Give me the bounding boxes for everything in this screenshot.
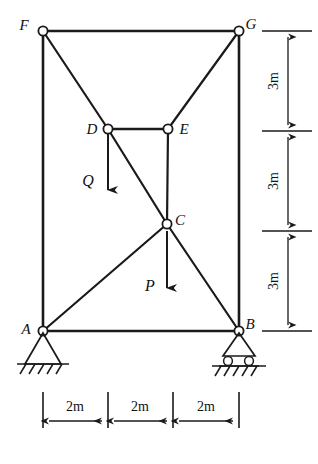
ground-hatching-a: [20, 364, 62, 374]
ground-hatching-b: [215, 366, 257, 376]
joint-label-F: F: [18, 17, 29, 33]
joint-label-C: C: [175, 212, 186, 228]
pin-triangle-a: [25, 333, 61, 364]
member-C-B: [167, 224, 239, 331]
hdim-label-2: 2m: [197, 399, 215, 414]
joint-G: [234, 26, 243, 35]
truss-diagram-canvas: 3m 3m 3m 2m 2m 2m F G D E C A B: [0, 0, 318, 464]
pin-support-a: [17, 333, 69, 374]
joint-label-B: B: [245, 316, 254, 332]
force-label-P: P: [144, 277, 155, 294]
hdim-label-1: 2m: [131, 399, 149, 414]
member-E-C: [167, 129, 168, 224]
joint-E: [163, 124, 172, 133]
joint-C: [162, 219, 171, 228]
vdim-label-0: 3m: [266, 72, 281, 90]
force-labels: Q P: [82, 172, 155, 294]
horizontal-dimensions: 2m 2m 2m: [43, 392, 239, 428]
vdim-label-1: 3m: [266, 172, 281, 190]
truss-figure: 3m 3m 3m 2m 2m 2m F G D E C A B: [0, 0, 318, 464]
vertical-dimensions: 3m 3m 3m: [262, 31, 312, 331]
member-F-D: [43, 31, 108, 129]
hdim-label-0: 2m: [66, 399, 84, 414]
roller-wheel-left-b: [224, 357, 233, 366]
joint-label-G: G: [246, 16, 257, 32]
vdim-label-2: 3m: [266, 272, 281, 290]
roller-support-b: [212, 333, 266, 376]
truss-members: [43, 31, 239, 331]
force-label-Q: Q: [82, 172, 94, 189]
member-D-C: [108, 129, 167, 224]
joint-label-A: A: [20, 321, 31, 337]
joint-D: [103, 124, 112, 133]
roller-wheel-right-b: [245, 357, 254, 366]
member-G-E: [168, 31, 239, 129]
joint-label-D: D: [86, 121, 98, 137]
joint-F: [38, 26, 47, 35]
joint-label-E: E: [178, 121, 188, 137]
